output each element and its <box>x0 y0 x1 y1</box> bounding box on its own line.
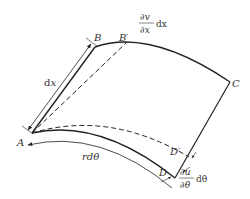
label-b-prime: B′ <box>118 32 129 43</box>
label-d: D <box>158 167 167 178</box>
edge-bc <box>95 42 230 82</box>
label-b: B <box>93 32 101 43</box>
label-rdtheta: rdθ <box>82 151 99 162</box>
dx-dimension-arrow <box>28 44 91 130</box>
edge-ad <box>32 130 175 178</box>
label-dx-var: x <box>50 77 56 88</box>
label-du-dtheta-den: ∂θ <box>180 180 191 190</box>
label-du-dtheta-suffix: dθ <box>196 174 207 184</box>
rdtheta-arrow <box>28 141 172 188</box>
dprime-offset-tick <box>192 152 196 158</box>
label-dx: dx <box>44 77 56 88</box>
shell-element-diagram: A B B′ C D D′ dx rdθ ∂v ∂x dx ∂u ∂θ dθ <box>0 0 250 199</box>
label-a: A <box>16 137 24 148</box>
label-du-dtheta-num: ∂u <box>180 167 191 177</box>
label-d-prime: D′ <box>169 146 181 157</box>
label-du-dtheta: ∂u ∂θ dθ <box>179 167 207 190</box>
label-dv-dx-suffix: dx <box>156 19 167 29</box>
edge-ab <box>32 47 95 133</box>
label-dv-dx: ∂v ∂x dx <box>139 12 167 35</box>
label-dv-dx-num: ∂v <box>140 12 150 22</box>
dx-extension-bottom <box>22 126 33 134</box>
label-dv-dx-den: ∂x <box>140 25 150 35</box>
label-c: C <box>232 78 240 89</box>
edge-cd <box>175 82 230 178</box>
